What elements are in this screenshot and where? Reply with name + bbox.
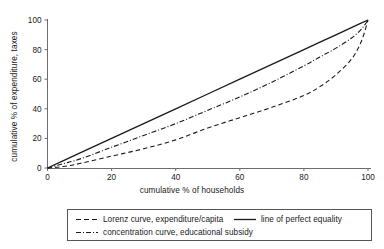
legend-swatch-dashed-icon xyxy=(76,215,98,224)
legend-swatch-solid-icon xyxy=(234,215,256,224)
x-tick-label: 0 xyxy=(45,173,50,182)
y-tick-label: 0 xyxy=(37,164,42,173)
plot-area: 020406080100 020406080100 cumulative % o… xyxy=(0,0,384,200)
chart-figure: 020406080100 020406080100 cumulative % o… xyxy=(0,0,384,249)
y-axis-title: cumulative % of expenditure, taxes xyxy=(10,2,19,192)
legend-swatch-dashdot-icon xyxy=(76,228,98,237)
chart-svg xyxy=(0,0,384,200)
data-series-layer xyxy=(48,20,369,168)
x-tick-label: 80 xyxy=(299,173,308,182)
x-axis-title: cumulative % of households xyxy=(0,186,384,195)
x-tick-label: 20 xyxy=(107,173,116,182)
y-tick-label: 20 xyxy=(32,134,41,143)
legend-label-lorenz: Lorenz curve, expenditure/capita xyxy=(103,215,223,224)
x-tick-label: 60 xyxy=(235,173,244,182)
legend: Lorenz curve, expenditure/capita line of… xyxy=(67,209,372,241)
legend-label-concentration: concentration curve, educational subsidy xyxy=(103,228,253,237)
y-tick-label: 100 xyxy=(28,16,42,25)
y-tick-label: 60 xyxy=(32,75,41,84)
y-tick-label: 80 xyxy=(32,45,41,54)
x-tick-label: 40 xyxy=(171,173,180,182)
series-line xyxy=(48,20,369,168)
x-tick-label: 100 xyxy=(361,173,375,182)
legend-item-lorenz: Lorenz curve, expenditure/capita xyxy=(76,213,223,225)
legend-label-equality: line of perfect equality xyxy=(261,215,342,224)
y-tick-label: 40 xyxy=(32,104,41,113)
legend-item-concentration: concentration curve, educational subsidy xyxy=(76,226,253,238)
legend-item-equality: line of perfect equality xyxy=(234,213,342,225)
